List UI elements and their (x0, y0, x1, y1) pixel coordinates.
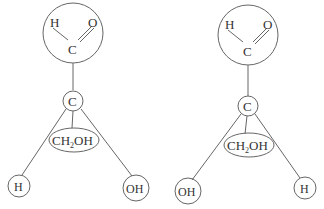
label-ch2oh: CH2OH (52, 133, 93, 150)
label-left-group: OH (178, 185, 196, 199)
label-c: C (243, 44, 252, 59)
label-o: O (88, 15, 97, 30)
label-right-group: OH (126, 182, 144, 196)
label-h: H (50, 15, 59, 30)
label-h: H (225, 17, 234, 32)
glyceraldehyde-diagram: H C O C CH2OH H OH H C O C CH2OH OH H (0, 0, 324, 209)
label-right-group: H (300, 182, 309, 196)
label-ch2oh: CH2OH (227, 138, 268, 155)
label-c: C (68, 42, 77, 57)
left-molecule (8, 3, 149, 201)
diagram-svg: H C O C CH2OH H OH H C O C CH2OH OH H (0, 0, 324, 209)
label-center-c: C (68, 94, 77, 109)
label-o: O (263, 17, 272, 32)
label-center-c: C (243, 99, 252, 114)
label-left-group: H (14, 180, 23, 194)
